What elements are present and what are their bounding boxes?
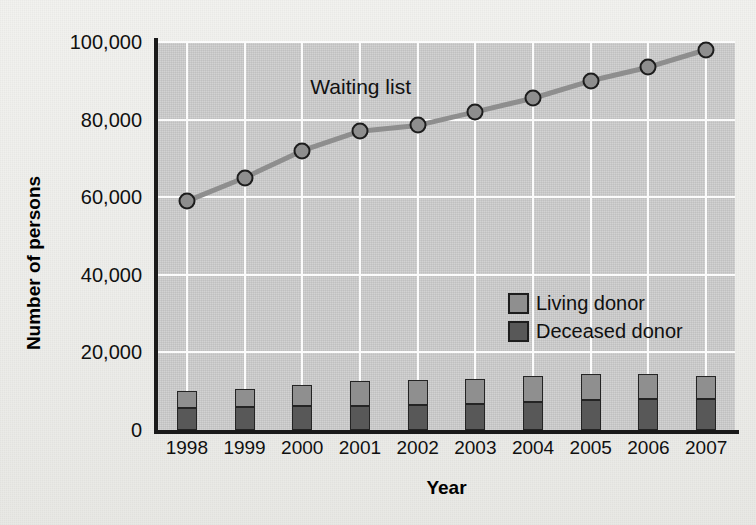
data-point-marker — [409, 117, 426, 134]
waiting-list-line — [158, 42, 735, 430]
legend-item-living-donor: Living donor — [508, 290, 683, 316]
legend-label-living-donor: Living donor — [536, 292, 645, 315]
chart-figure: Number of persons 020,00040,00060,00080,… — [0, 0, 756, 525]
data-point-marker — [640, 59, 657, 76]
y-axis-tick-label: 60,000 — [0, 186, 142, 209]
data-point-marker — [236, 169, 253, 186]
legend-swatch-icon-deceased-donor — [508, 321, 529, 342]
x-axis-tick-label: 2007 — [666, 437, 746, 459]
y-axis-tick-label: 80,000 — [0, 108, 142, 131]
legend-swatch-icon-living-donor — [508, 293, 529, 314]
y-axis-tick-label: 100,000 — [0, 31, 142, 54]
x-axis-title: Year — [158, 477, 735, 499]
y-axis-tick-label: 20,000 — [0, 341, 142, 364]
data-point-marker — [294, 142, 311, 159]
y-axis-tick-label: 0 — [0, 419, 142, 442]
data-point-marker — [467, 103, 484, 120]
legend-label-deceased-donor: Deceased donor — [536, 320, 683, 343]
waiting-list-polyline — [187, 50, 706, 201]
waiting-list-annotation: Waiting list — [310, 75, 411, 99]
x-axis-line — [154, 430, 739, 434]
chart-legend: Living donor Deceased donor — [508, 290, 683, 346]
data-point-marker — [178, 193, 195, 210]
legend-item-deceased-donor: Deceased donor — [508, 318, 683, 344]
data-point-marker — [582, 72, 599, 89]
y-axis-tick-label: 40,000 — [0, 263, 142, 286]
plot-area: Waiting list Living donor Deceased donor — [158, 42, 735, 430]
data-point-marker — [351, 123, 368, 140]
data-point-marker — [698, 41, 715, 58]
data-point-marker — [525, 90, 542, 107]
